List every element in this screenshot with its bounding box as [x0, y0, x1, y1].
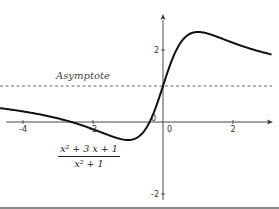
x-tick-label: -4: [19, 125, 27, 134]
y-tick-label: 2: [154, 46, 159, 55]
formula-numerator: x² + 3 x + 1: [58, 143, 120, 157]
formula-denominator: x² + 1: [58, 157, 120, 170]
formula-label: x² + 3 x + 1 x² + 1: [58, 143, 120, 170]
x-tick-label: 2: [230, 125, 235, 134]
y-axis-arrow-icon: [161, 14, 166, 20]
bottom-border: [0, 207, 279, 209]
asymptote-label: Asymptote: [55, 70, 110, 81]
y-tick-label: -2: [151, 190, 159, 199]
function-plot: -4-202 2-2 0 Asymptote: [0, 0, 279, 209]
x-tick-label: 0: [167, 125, 172, 134]
